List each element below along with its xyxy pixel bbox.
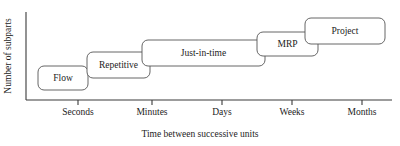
process-box-project: Project (305, 18, 385, 44)
process-box-label-flow: Flow (53, 73, 73, 83)
process-box-label-just-in-time: Just-in-time (181, 48, 226, 58)
process-choice-diagram: SecondsMinutesDaysWeeksMonths FlowRepeti… (0, 0, 400, 146)
x-axis-ticks: SecondsMinutesDaysWeeksMonths (62, 100, 377, 117)
x-axis-title: Time between successive units (141, 129, 258, 139)
y-axis-title: Number of subparts (3, 18, 13, 94)
x-tick-label-weeks: Weeks (279, 107, 304, 117)
x-tick-label-months: Months (347, 107, 376, 117)
process-box-repetitive: Repetitive (87, 52, 150, 78)
x-tick-label-days: Days (212, 107, 232, 117)
process-boxes: FlowRepetitiveJust-in-timeMRPProject (38, 18, 385, 90)
x-tick-label-seconds: Seconds (62, 107, 94, 117)
process-box-label-mrp: MRP (277, 39, 297, 49)
diagram-canvas: SecondsMinutesDaysWeeksMonths FlowRepeti… (0, 0, 400, 146)
x-tick-label-minutes: Minutes (136, 107, 167, 117)
process-box-just-in-time: Just-in-time (142, 40, 265, 66)
process-box-label-project: Project (332, 26, 359, 36)
process-box-flow: Flow (38, 66, 88, 90)
process-box-label-repetitive: Repetitive (99, 60, 138, 70)
